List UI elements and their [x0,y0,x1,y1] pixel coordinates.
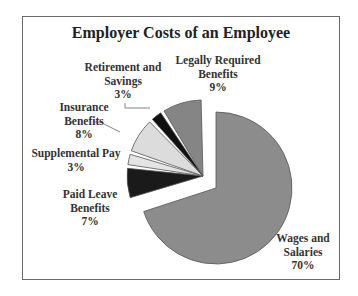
label-line: Insurance [54,101,114,115]
label-line: Legally Required [168,54,268,68]
label-pct: 7% [60,215,120,229]
label-retirement: Retirement and Savings 3% [78,61,168,102]
label-line: Paid Leave [60,188,120,202]
label-line: Benefits [60,202,120,216]
label-pct: 9% [168,81,268,95]
label-line: Savings [78,75,168,89]
label-pct: 3% [78,88,168,102]
retirement-leader-line [125,103,150,108]
label-line: Benefits [54,115,114,129]
label-pct: 3% [30,161,122,175]
label-line: Retirement and [78,61,168,75]
label-wages: Wages and Salaries 70% [268,232,338,273]
label-line: Wages and [268,232,338,246]
label-line: Benefits [168,68,268,82]
label-insurance: Insurance Benefits 8% [54,101,114,142]
label-pct: 8% [54,128,114,142]
label-line: Salaries [268,246,338,260]
label-paid-leave: Paid Leave Benefits 7% [60,188,120,229]
label-pct: 70% [268,259,338,273]
label-legally-required: Legally Required Benefits 9% [168,54,268,95]
label-supplemental: Supplemental Pay 3% [30,147,122,174]
label-line: Supplemental Pay [30,147,122,161]
